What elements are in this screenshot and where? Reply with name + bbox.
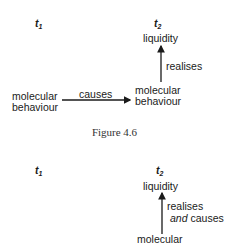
liquidity-node-top: liquidity [143, 33, 178, 44]
molecular-behaviour-right-line2: behaviour [135, 96, 181, 107]
time-t1-top: t1 [35, 18, 42, 32]
and-causes-label: and causes [170, 213, 224, 224]
realises-label-top: realises [166, 61, 202, 72]
time-t1-bottom: t1 [35, 165, 42, 179]
time-t2-top: t2 [154, 18, 161, 32]
figure-caption: Figure 4.6 [0, 126, 229, 138]
molecular-behaviour-left-line2: behaviour [12, 102, 58, 113]
molecular-node-bottom: molecular [137, 234, 183, 245]
realises-label-bottom: realises [167, 201, 203, 212]
causes-label: causes [79, 89, 112, 100]
liquidity-node-bottom: liquidity [143, 181, 178, 192]
time-t2-bottom: t2 [156, 165, 163, 179]
